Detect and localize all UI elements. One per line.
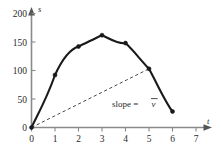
y-axis-arrow-icon <box>28 7 35 16</box>
data-point-t3 <box>100 33 104 37</box>
x-tick-label-1: 1 <box>53 134 58 144</box>
x-tick-label-7: 7 <box>194 134 199 144</box>
position-curve <box>32 35 173 127</box>
data-point-t5 <box>147 67 151 71</box>
slope-annotation-symbol: v <box>152 99 156 109</box>
y-axis-title: s <box>38 4 42 14</box>
data-point-t0 <box>30 126 34 130</box>
x-tick-label-5: 5 <box>147 134 152 144</box>
x-tick-label-2: 2 <box>76 134 81 144</box>
x-tick-label-3: 3 <box>100 134 105 144</box>
data-point-t4 <box>124 41 128 45</box>
data-point-t2 <box>77 45 81 49</box>
x-tick-label-0: 0 <box>29 134 34 144</box>
x-tick-label-4: 4 <box>123 134 128 144</box>
position-time-chart-figure: 0 50 100 150 200 0 1 2 3 4 5 6 7 s t <box>0 0 221 149</box>
chart-svg: 0 50 100 150 200 0 1 2 3 4 5 6 7 s t <box>0 0 221 149</box>
data-point-t6 <box>171 110 175 114</box>
y-tick-label-100: 100 <box>13 66 28 76</box>
data-point-markers <box>30 33 175 129</box>
axes-group <box>28 7 212 131</box>
x-tick-label-6: 6 <box>170 134 175 144</box>
y-tick-label-200: 200 <box>13 9 28 19</box>
data-point-t1 <box>53 73 57 77</box>
y-axis-tick-labels: 0 50 100 150 200 <box>13 9 28 133</box>
slope-annotation: slope = v <box>112 99 158 109</box>
x-axis-tick-labels: 0 1 2 3 4 5 6 7 <box>29 134 199 144</box>
position-curve-path <box>32 35 173 127</box>
y-tick-label-150: 150 <box>13 38 28 48</box>
y-tick-label-50: 50 <box>18 95 28 105</box>
slope-annotation-prefix: slope = <box>112 99 138 109</box>
y-tick-label-0: 0 <box>22 123 27 133</box>
x-axis-title: t <box>207 116 210 126</box>
